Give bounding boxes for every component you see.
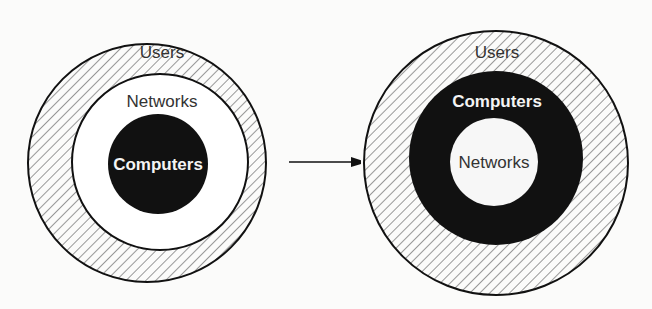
right-networks-label: Networks: [459, 153, 530, 172]
left-diagram: Users Networks Computers: [28, 43, 266, 282]
left-computers-label: Computers: [113, 155, 203, 174]
left-users-label: Users: [140, 43, 184, 62]
right-users-label: Users: [475, 43, 519, 62]
right-diagram: Users Computers Networks: [364, 31, 628, 295]
left-networks-label: Networks: [127, 92, 198, 111]
diagram-canvas: Users Networks Computers Users Computers…: [0, 0, 652, 309]
right-computers-label: Computers: [452, 92, 542, 111]
